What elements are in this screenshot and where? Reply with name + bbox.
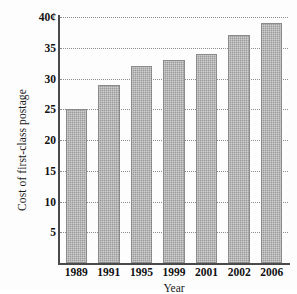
bar-1989	[66, 109, 87, 263]
x-tick-label-1999: 1999	[163, 266, 186, 278]
x-axis-title: Year	[60, 282, 288, 294]
y-tick-label-25: 25	[4, 103, 56, 115]
plot-area	[60, 17, 288, 263]
y-tick-label-5: 5	[4, 226, 56, 238]
y-tick-label-20: 20	[4, 134, 56, 146]
bar-1995	[131, 66, 152, 263]
bar-1991	[98, 85, 119, 263]
x-tick-label-2001: 2001	[195, 266, 218, 278]
x-tick-label-2006: 2006	[260, 266, 283, 278]
y-tick-label-10: 10	[4, 196, 56, 208]
y-tick-label-15: 15	[4, 165, 56, 177]
bar-1999	[163, 60, 184, 263]
bar-2002	[228, 35, 249, 263]
y-tick-label-40: 40¢	[4, 11, 56, 23]
bar-2006	[261, 23, 282, 263]
x-tick-label-1989: 1989	[65, 266, 88, 278]
x-tick-label-1995: 1995	[130, 266, 153, 278]
x-tick-label-1991: 1991	[97, 266, 120, 278]
y-tick-label-30: 30	[4, 73, 56, 85]
x-tick-label-2002: 2002	[228, 266, 251, 278]
bar-2001	[196, 54, 217, 263]
y-tick-label-35: 35	[4, 42, 56, 54]
y-axis-tick-labels: 510152025303540¢	[0, 0, 56, 290]
x-axis-line	[58, 263, 290, 265]
bars-group	[60, 17, 288, 263]
